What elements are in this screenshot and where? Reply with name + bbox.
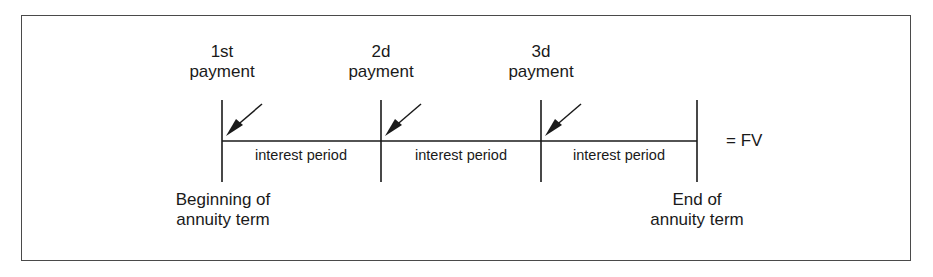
- interest-period-label-2: interest period: [415, 147, 507, 163]
- beginning-term-line-2: annuity term: [176, 210, 271, 230]
- figure-border-frame: [21, 15, 911, 261]
- payment-word-2: payment: [348, 62, 413, 82]
- beginning-term-line-1: Beginning of: [176, 190, 271, 210]
- payment-label-1: 1st payment: [189, 42, 254, 82]
- end-term-line-1: End of: [650, 190, 744, 210]
- annuity-timeline-figure: 1st payment 2d payment 3d payment intere…: [0, 0, 933, 277]
- payment-number-2: 2d: [348, 42, 413, 62]
- interest-period-label-1: interest period: [255, 147, 347, 163]
- beginning-of-annuity-term-label: Beginning of annuity term: [176, 190, 271, 230]
- interest-period-label-3: interest period: [573, 147, 665, 163]
- payment-word-1: payment: [189, 62, 254, 82]
- payment-word-3: payment: [508, 62, 573, 82]
- payment-label-2: 2d payment: [348, 42, 413, 82]
- future-value-label: = FV: [726, 131, 762, 151]
- end-of-annuity-term-label: End of annuity term: [650, 190, 744, 230]
- payment-number-3: 3d: [508, 42, 573, 62]
- payment-label-3: 3d payment: [508, 42, 573, 82]
- end-term-line-2: annuity term: [650, 210, 744, 230]
- payment-number-1: 1st: [189, 42, 254, 62]
